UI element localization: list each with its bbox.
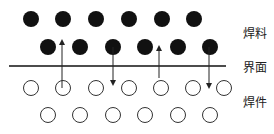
solder-atom: [202, 39, 218, 55]
interface-label: 界面: [243, 58, 267, 75]
workpiece-atom: [89, 81, 104, 96]
solder-atom: [72, 39, 88, 55]
workpiece-atom: [56, 81, 71, 96]
workpiece-atom: [154, 81, 169, 96]
workpiece-atom: [217, 81, 232, 96]
diffusion-diagram: [0, 0, 274, 134]
solder-atom: [137, 39, 153, 55]
workpiece-atom: [106, 108, 121, 123]
solder-atom: [121, 11, 137, 27]
workpiece-atoms: [24, 81, 232, 123]
workpiece-atom: [122, 81, 137, 96]
workpiece-atom: [24, 81, 39, 96]
workpiece-atom: [186, 81, 201, 96]
solder-atom: [170, 39, 186, 55]
workpiece-atom: [138, 108, 153, 123]
solder-atom: [186, 11, 202, 27]
solder-atom: [40, 39, 56, 55]
solder-label: 焊料: [243, 24, 267, 41]
workpiece-atom: [203, 108, 218, 123]
solder-atom: [23, 11, 39, 27]
solder-atom: [55, 11, 71, 27]
workpiece-atom: [73, 108, 88, 123]
workpiece-atom: [41, 108, 56, 123]
solder-atom: [154, 11, 170, 27]
workpiece-label: 焊件: [243, 93, 267, 110]
solder-atom: [88, 11, 104, 27]
workpiece-atom: [171, 108, 186, 123]
solder-atoms: [23, 11, 218, 55]
